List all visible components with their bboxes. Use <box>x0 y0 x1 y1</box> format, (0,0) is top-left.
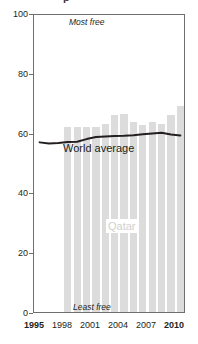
least-free-annotation: Least free <box>73 302 111 312</box>
plot-area: Most free Least free World average Qatar <box>33 14 185 313</box>
world-average-line <box>34 15 184 312</box>
most-free-annotation: Most free <box>69 17 104 27</box>
y-tick-mark-0 <box>29 313 33 314</box>
clipped-title-glyph: p <box>63 0 77 3</box>
y-tick-label-80: 80 <box>0 70 28 79</box>
y-tick-label-60: 60 <box>0 130 28 139</box>
plot-inner: Most free Least free World average Qatar <box>34 15 184 312</box>
y-tick-label-20: 20 <box>0 249 28 258</box>
x-tick-label-2010: 2010 <box>157 320 191 330</box>
world-average-label: World average <box>63 142 134 154</box>
y-tick-label-40: 40 <box>0 189 28 198</box>
qatar-series-label: Qatar <box>106 219 138 233</box>
freedom-index-chart: p 100 80 60 40 20 0 <box>0 0 198 344</box>
y-tick-label-0: 0 <box>0 309 28 318</box>
y-tick-label-100: 100 <box>0 10 28 19</box>
